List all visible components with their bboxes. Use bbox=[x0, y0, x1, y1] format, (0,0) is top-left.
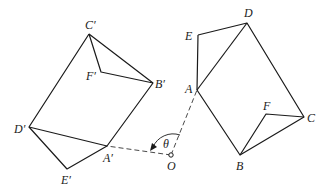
center-point bbox=[169, 153, 173, 157]
label-D-prime: D′ bbox=[13, 122, 26, 136]
label-D: D bbox=[243, 6, 253, 20]
original-outline bbox=[197, 23, 304, 155]
label-F: F bbox=[262, 99, 271, 113]
rotated-outline bbox=[29, 34, 153, 169]
label-O: O bbox=[167, 159, 176, 173]
label-A-prime: A′ bbox=[102, 151, 113, 165]
label-F-prime: F′ bbox=[85, 69, 96, 83]
label-theta: θ bbox=[163, 137, 169, 151]
label-E-prime: E′ bbox=[60, 173, 71, 187]
rotated-polygon bbox=[29, 34, 153, 169]
label-E: E bbox=[184, 29, 193, 43]
original-polygon bbox=[197, 23, 304, 155]
label-B-prime: B′ bbox=[155, 77, 165, 91]
rotation-diagram: A B C D E F A′ B′ C′ D′ E′ F′ O θ bbox=[0, 0, 332, 195]
label-C-prime: C′ bbox=[85, 18, 96, 32]
label-C: C bbox=[307, 111, 316, 125]
rotated-diagonal-da bbox=[29, 127, 107, 146]
label-B: B bbox=[236, 159, 244, 173]
label-A: A bbox=[184, 82, 193, 96]
ray-o-to-a bbox=[171, 90, 197, 155]
ray-o-to-a-prime bbox=[107, 146, 171, 155]
angle-arrow-icon bbox=[150, 143, 157, 151]
